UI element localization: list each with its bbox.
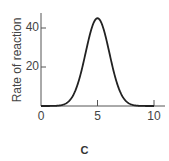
y-tick-label: 20: [26, 59, 40, 73]
y-ticks: 2040: [26, 20, 46, 73]
y-axis-label: Rate of reaction: [10, 18, 24, 103]
reaction-rate-curve: [41, 18, 154, 106]
rate-of-reaction-chart: 2040 0510 Rate of reaction: [0, 0, 169, 161]
panel-label: C: [0, 144, 169, 156]
x-ticks: 0510: [38, 100, 161, 123]
y-tick-label: 40: [26, 20, 40, 34]
x-tick-label: 5: [94, 109, 101, 123]
x-tick-label: 10: [147, 109, 161, 123]
x-tick-label: 0: [38, 109, 45, 123]
